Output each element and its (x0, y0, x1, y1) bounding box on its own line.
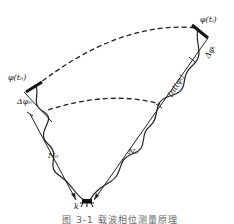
signal-wave-left (36, 86, 84, 200)
orbit-arc-inner (48, 98, 160, 110)
signal-wave-right (90, 28, 199, 200)
label-phi-ti: φ(tᵢ) (200, 16, 217, 24)
receiver-antenna-icon (80, 199, 94, 207)
orbit-arc-outer (36, 27, 198, 86)
label-phi-t0: φ(t₀) (8, 74, 26, 82)
arrow-head-left (71, 193, 76, 200)
carrier-phase-diagram (0, 0, 234, 224)
label-n0-right: N₀ (128, 148, 138, 156)
figure-caption: 图 3-1 载波相位测量原理 (60, 213, 180, 224)
label-delta-phi0: Δφ₀ (17, 98, 32, 106)
satellite-ti-marker (192, 25, 208, 38)
label-n0-left: N₀ (48, 152, 58, 160)
range-line-right (94, 38, 208, 200)
satellite-t0-marker (26, 82, 42, 92)
label-receiver-k: k (74, 203, 79, 211)
